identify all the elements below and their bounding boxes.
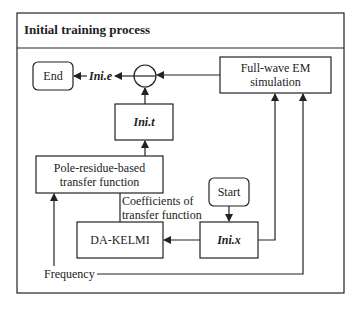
outer-frame [17, 13, 344, 293]
pole-line1: Pole-residue-based [54, 161, 145, 175]
fullwave-node: Full-wave EM simulation [220, 57, 331, 93]
pole-line2: transfer function [60, 175, 140, 189]
pole-residue-node: Pole-residue-based transfer function [36, 156, 163, 193]
end-node: End [33, 62, 73, 90]
coefficients-label: Coefficients of transfer function [122, 194, 202, 222]
panel-title: Initial training process [24, 22, 150, 38]
coeff-line1: Coefficients of [122, 194, 202, 208]
dakelmi-node: DA-KELMI [77, 222, 163, 258]
arrow-inix-to-fullwave [258, 94, 275, 240]
ini-t-node: Ini.t [115, 104, 173, 140]
flowchart-canvas [0, 0, 356, 309]
fullwave-line2: simulation [250, 75, 301, 89]
ini-x-node: Ini.x [200, 222, 258, 258]
fullwave-line1: Full-wave EM [241, 61, 311, 75]
start-node: Start [209, 178, 249, 206]
ini-e-label: Ini.e [89, 69, 112, 83]
coeff-line2: transfer function [122, 208, 202, 222]
frequency-label: Frequency [44, 267, 95, 281]
